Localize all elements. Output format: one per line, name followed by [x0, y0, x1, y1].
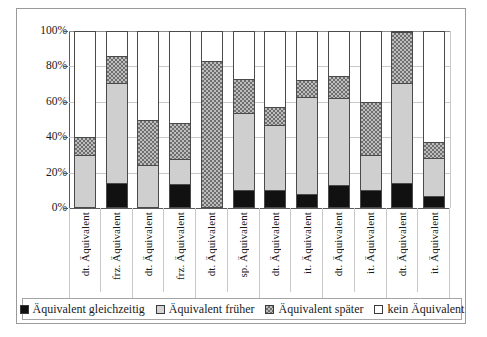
legend-label: kein Äquivalent	[387, 302, 464, 317]
bar-segment	[329, 32, 349, 76]
y-axis: 0%20%40%60%80%100%	[17, 31, 67, 208]
bar-segment	[234, 113, 254, 189]
stacked-bar[interactable]	[137, 31, 159, 208]
y-axis-tick-label: 0%	[21, 202, 67, 213]
stacked-bar[interactable]	[233, 31, 255, 208]
y-axis-tick-label: 20%	[21, 167, 67, 178]
bar-segment	[265, 107, 285, 125]
legend-swatch-icon	[20, 305, 29, 314]
category-cell: dt. Äquivalent	[196, 208, 228, 292]
bar-segment	[297, 80, 317, 97]
stacked-bar[interactable]	[391, 31, 413, 208]
category-cell: frz. Äquivalent	[164, 208, 196, 292]
bar-segment	[107, 32, 127, 56]
stacked-bar[interactable]	[423, 31, 445, 208]
bar-segment	[202, 61, 222, 207]
bar-series-container	[69, 31, 450, 208]
legend-swatch-icon	[374, 305, 383, 314]
bar-segment	[392, 32, 412, 83]
legend-item[interactable]: Äquivalent früher	[156, 302, 255, 317]
bar-segment	[202, 32, 222, 61]
y-axis-tick-mark	[64, 31, 68, 32]
category-label: dt. Äquivalent	[79, 212, 91, 276]
category-label: it. Äquivalent	[428, 212, 440, 274]
bar-segment	[424, 142, 444, 158]
bar-segment	[329, 76, 349, 99]
stacked-bar[interactable]	[328, 31, 350, 208]
category-cell: it. Äquivalent	[355, 208, 387, 292]
bar-segment	[138, 32, 158, 120]
category-cell: it. Äquivalent	[418, 208, 450, 292]
category-label: sp. Äquivalent	[237, 212, 249, 278]
y-axis-tick-label: 60%	[21, 96, 67, 107]
y-axis-tick-mark	[64, 66, 68, 67]
category-cell: sp. Äquivalent	[228, 208, 260, 292]
bar-segment	[329, 185, 349, 207]
bar-segment	[424, 158, 444, 196]
chart-legend: Äquivalent gleichzeitigÄquivalent früher…	[22, 298, 462, 320]
y-axis-tick-mark	[64, 102, 68, 103]
bar-segment	[170, 184, 190, 207]
category-label: dt. Äquivalent	[396, 212, 408, 276]
bar-segment	[392, 83, 412, 183]
stacked-bar[interactable]	[74, 31, 96, 208]
bar-segment	[138, 120, 158, 166]
bar-segment	[170, 32, 190, 123]
category-axis: dt. Äquivalentfrz. Äquivalentdt. Äquival…	[69, 208, 450, 292]
bar-segment	[234, 190, 254, 208]
bar-segment	[170, 123, 190, 159]
bar-segment	[297, 97, 317, 194]
bar-segment	[329, 98, 349, 185]
bar-segment	[75, 32, 95, 137]
bar-segment	[170, 159, 190, 184]
bar-slot	[164, 31, 196, 208]
category-label: dt. Äquivalent	[269, 212, 281, 276]
bar-segment	[234, 32, 254, 79]
bar-slot	[228, 31, 260, 208]
y-axis-tick-mark	[64, 173, 68, 174]
stacked-bar[interactable]	[169, 31, 191, 208]
bar-segment	[75, 137, 95, 155]
bar-segment	[265, 125, 285, 191]
category-label: dt. Äquivalent	[142, 212, 154, 276]
legend-label: Äquivalent gleichzeitig	[33, 302, 145, 317]
y-axis-tick-mark	[64, 208, 68, 209]
category-cell: dt. Äquivalent	[387, 208, 419, 292]
category-cell: it. Äquivalent	[291, 208, 323, 292]
stacked-bar[interactable]	[360, 31, 382, 208]
bar-slot	[291, 31, 323, 208]
category-cell: dt. Äquivalent	[133, 208, 165, 292]
legend-item[interactable]: Äquivalent gleichzeitig	[20, 302, 145, 317]
bar-slot	[418, 31, 450, 208]
stacked-bar[interactable]	[264, 31, 286, 208]
bar-slot	[133, 31, 165, 208]
y-axis-tick-label: 100%	[21, 25, 67, 36]
legend-item[interactable]: Äquivalent später	[265, 302, 363, 317]
category-label: it. Äquivalent	[301, 212, 313, 274]
bar-segment	[361, 32, 381, 102]
legend-swatch-icon	[265, 305, 274, 314]
bar-segment	[392, 183, 412, 208]
bar-segment	[361, 190, 381, 208]
bar-segment	[297, 194, 317, 207]
bar-segment	[265, 32, 285, 107]
y-axis-tick-label: 40%	[21, 131, 67, 142]
bar-segment	[75, 155, 95, 208]
legend-item[interactable]: kein Äquivalent	[374, 302, 464, 317]
category-label: dt. Äquivalent	[332, 212, 344, 276]
bar-slot	[355, 31, 387, 208]
bar-segment	[107, 183, 127, 208]
bar-segment	[424, 32, 444, 142]
stacked-bar[interactable]	[106, 31, 128, 208]
category-label: frz. Äquivalent	[174, 212, 186, 280]
bar-segment	[138, 165, 158, 207]
y-axis-tick-label: 80%	[21, 60, 67, 71]
stacked-bar[interactable]	[201, 31, 223, 208]
category-label: frz. Äquivalent	[110, 212, 122, 280]
bar-segment	[424, 196, 444, 207]
stacked-bar[interactable]	[296, 31, 318, 208]
bar-slot	[323, 31, 355, 208]
bar-slot	[101, 31, 133, 208]
bar-slot	[387, 31, 419, 208]
legend-label: Äquivalent früher	[169, 302, 255, 317]
